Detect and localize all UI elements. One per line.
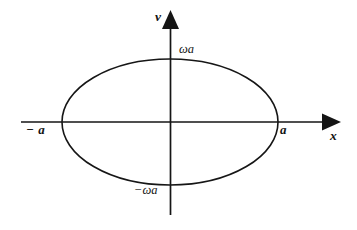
phase-plot-canvas <box>0 0 357 230</box>
v-axis-label: v <box>155 10 161 24</box>
v-positive-tick-label: ωa <box>179 43 194 56</box>
x-negative-tick-label: − a <box>26 123 45 136</box>
v-negative-tick-label: −ωa <box>134 184 158 197</box>
x-positive-tick-label: a <box>280 123 287 136</box>
phase-space-diagram: v x ωa −ωa − a a <box>0 0 357 230</box>
x-axis-label: x <box>330 129 337 143</box>
v-axis-arrow-icon <box>162 10 179 29</box>
